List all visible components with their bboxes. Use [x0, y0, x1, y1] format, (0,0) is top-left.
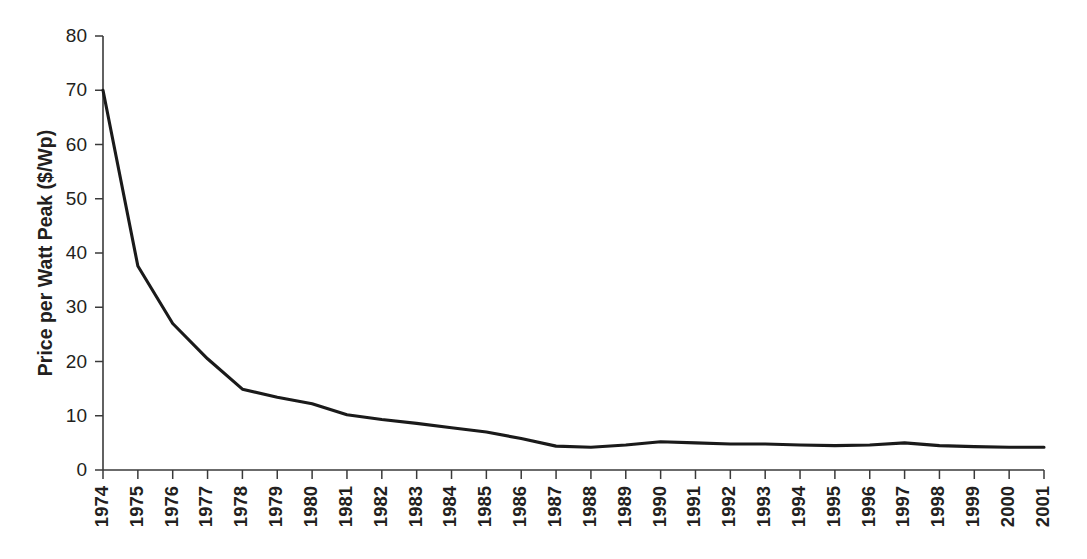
x-tick-label: 1983 [405, 486, 426, 527]
x-tick-label: 1977 [195, 486, 216, 527]
x-axis-ticks: 1974197519761977197819791980198119821983… [91, 470, 1053, 527]
x-tick-label: 1988 [579, 486, 600, 527]
x-tick-label: 1997 [892, 486, 913, 527]
x-tick-label: 1979 [265, 486, 286, 527]
y-tick-label: 0 [76, 459, 87, 480]
y-tick-label: 60 [66, 134, 87, 155]
data-series-line [103, 90, 1044, 447]
x-tick-label: 1984 [439, 485, 460, 527]
y-axis-title-label: Price per Watt Peak ($/Wp) [34, 130, 56, 376]
x-tick-label: 1987 [544, 486, 565, 527]
y-tick-label: 10 [66, 405, 87, 426]
y-tick-label: 30 [66, 296, 87, 317]
x-tick-label: 2000 [997, 486, 1018, 527]
x-tick-label: 1992 [718, 486, 739, 527]
y-tick-label: 40 [66, 242, 87, 263]
y-axis-ticks: 01020304050607080 [66, 25, 103, 480]
x-tick-label: 1978 [230, 486, 251, 527]
y-tick-label: 70 [66, 79, 87, 100]
x-tick-label: 1976 [161, 486, 182, 527]
y-tick-label: 20 [66, 351, 87, 372]
x-tick-label: 1996 [858, 486, 879, 527]
price-per-watt-peak-chart: Price per Watt Peak ($/Wp) 0102030405060… [0, 0, 1087, 559]
x-tick-label: 1995 [823, 486, 844, 527]
x-tick-label: 1981 [335, 486, 356, 527]
x-tick-label: 1975 [126, 486, 147, 527]
x-tick-label: 2001 [1032, 486, 1053, 527]
x-tick-label: 1980 [300, 486, 321, 527]
x-tick-label: 1974 [91, 485, 112, 527]
x-tick-label: 1994 [788, 485, 809, 527]
x-tick-label: 1986 [509, 486, 530, 527]
x-tick-label: 1982 [370, 486, 391, 527]
x-tick-label: 1990 [649, 486, 670, 527]
x-tick-label: 1999 [962, 486, 983, 527]
x-tick-label: 1998 [927, 486, 948, 527]
y-axis-title: Price per Watt Peak ($/Wp) [34, 130, 56, 376]
chart-canvas: Price per Watt Peak ($/Wp) 0102030405060… [0, 0, 1087, 559]
x-tick-label: 1991 [683, 486, 704, 527]
y-tick-label: 50 [66, 188, 87, 209]
x-tick-label: 1985 [474, 486, 495, 527]
y-tick-label: 80 [66, 25, 87, 46]
x-tick-label: 1993 [753, 486, 774, 527]
x-tick-label: 1989 [614, 486, 635, 527]
